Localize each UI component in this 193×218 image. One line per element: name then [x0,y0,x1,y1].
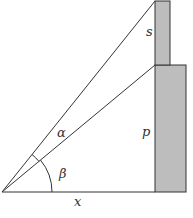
label-x: x [74,194,82,209]
elevation-angle-diagram: s α p β x [0,0,193,218]
label-s: s [146,24,153,39]
label-p: p [142,124,151,139]
beta-angle-arc [41,160,53,192]
label-alpha: α [57,125,66,140]
alpha-angle-arc [32,155,39,162]
sight-line-top [2,1,155,192]
pedestal-column [155,65,186,192]
label-beta: β [58,166,67,181]
statue-column [155,1,170,65]
sight-line-pedestal [2,65,155,192]
